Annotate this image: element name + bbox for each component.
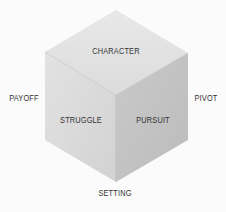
top-face-label: CHARACTER [83,46,149,56]
cube-graphic [0,0,226,212]
cube-diagram: CHARACTER STRUGGLE PURSUIT PAYOFF PIVOT … [0,0,226,212]
outer-right-label: PIVOT [191,93,221,103]
outer-left-label: PAYOFF [4,93,43,103]
left-face-label: STRUGGLE [52,115,109,125]
outer-bottom-label: SETTING [86,188,143,198]
right-face-label: PURSUIT [124,115,181,125]
